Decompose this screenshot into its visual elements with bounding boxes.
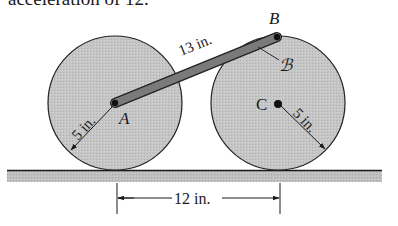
diagram-svg: B ℬ A C 12 in. 13 in. 5 in. 5 in. xyxy=(0,0,398,226)
label-center-distance: 12 in. xyxy=(174,190,210,207)
pin-b xyxy=(274,34,280,40)
label-body-b: ℬ xyxy=(279,56,294,75)
center-c-dot xyxy=(274,100,282,108)
label-rod-length: 13 in. xyxy=(176,31,214,59)
pin-a xyxy=(112,100,118,106)
caption-text: acceleration of 12. xyxy=(8,0,149,10)
label-point-c: C xyxy=(256,95,267,114)
label-point-b: B xyxy=(269,9,280,28)
label-point-a: A xyxy=(118,109,130,128)
ground xyxy=(7,170,382,182)
diagram-root: acceleration of 12. xyxy=(0,0,398,226)
